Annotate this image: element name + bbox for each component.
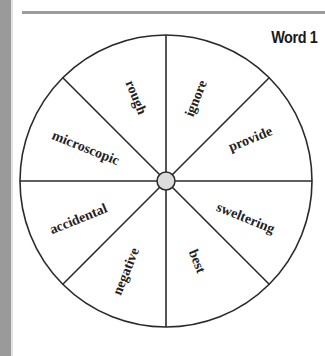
segment-label-ignore: ignore [182,78,210,119]
segment-label-negative: negative [110,245,143,297]
word-wheel: ignore provide sweltering best negative … [0,0,325,356]
segment-label-provide: provide [226,123,274,154]
segment-label-sweltering: sweltering [214,199,277,236]
segment-label-best: best [186,247,209,275]
segment-label-accidental: accidental [47,200,109,237]
wheel-hub [157,172,175,190]
segment-label-rough: rough [123,78,150,117]
segment-label-microscopic: microscopic [50,128,122,169]
